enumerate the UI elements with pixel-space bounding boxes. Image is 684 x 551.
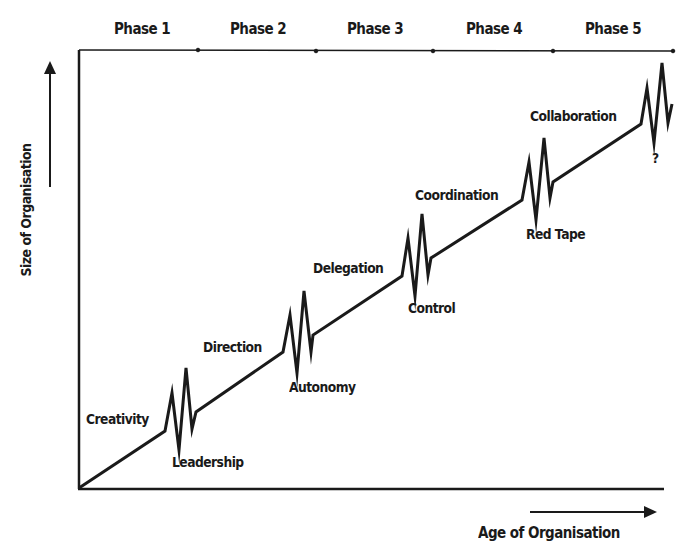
y-axis-arrow xyxy=(44,61,56,187)
phase-1-label: Phase 1 xyxy=(114,20,170,38)
stage-coordination: Coordination xyxy=(415,187,498,203)
crisis-unknown: ? xyxy=(652,150,659,166)
x-axis-label: Age of Organisation xyxy=(478,524,620,542)
crisis-red-tape: Red Tape xyxy=(526,226,585,242)
crisis-control: Control xyxy=(408,300,455,316)
phase-5-label: Phase 5 xyxy=(585,20,641,38)
y-axis-label: Size of Organisation xyxy=(18,143,34,276)
stage-delegation: Delegation xyxy=(313,260,383,276)
crisis-leadership: Leadership xyxy=(172,454,244,470)
phase-2-label: Phase 2 xyxy=(230,20,286,38)
stage-direction: Direction xyxy=(203,339,262,355)
phase-3-label: Phase 3 xyxy=(347,20,403,38)
x-axis-arrow xyxy=(530,506,657,518)
stage-collaboration: Collaboration xyxy=(530,108,616,124)
stage-creativity: Creativity xyxy=(86,411,149,427)
crisis-autonomy: Autonomy xyxy=(289,379,356,395)
phase-4-label: Phase 4 xyxy=(466,20,522,38)
phase-bar xyxy=(79,48,675,53)
